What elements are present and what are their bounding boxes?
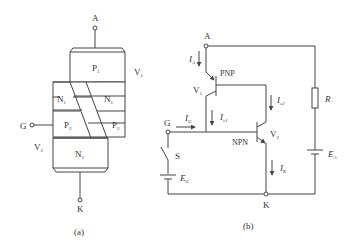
terminal-k-label-b: K	[263, 200, 270, 210]
current-ig-label: IG	[184, 113, 192, 124]
resistor-r-label: R	[324, 94, 331, 104]
terminal-g-label: G	[20, 121, 27, 131]
current-ik-label: IK	[279, 163, 287, 174]
terminal-g-node	[30, 123, 34, 127]
terminal-k-node	[78, 198, 82, 202]
layer-p1	[70, 48, 125, 82]
thyristor-diagram: A P1 V1 N1 N1 P2 P2 N2 V2	[0, 0, 354, 247]
v1-label-b: V1	[193, 85, 203, 96]
current-ia-label: IA	[188, 54, 196, 65]
switch-s-label: S	[175, 151, 180, 161]
current-ic2-label: Ic2	[276, 95, 285, 106]
npn-emitter	[257, 137, 265, 143]
terminal-k-node-b	[264, 192, 268, 196]
npn-label: NPN	[232, 138, 248, 147]
source-eg-label: EG	[179, 173, 190, 184]
caption-a: (a)	[74, 227, 84, 237]
resistor-r	[312, 88, 318, 108]
terminal-a-label: A	[92, 13, 99, 23]
pnp-emitter	[206, 72, 214, 80]
terminal-a-label-b: A	[204, 31, 211, 41]
v2-label-b: V2	[270, 129, 280, 140]
terminal-g-node-b	[166, 130, 170, 134]
transistor-v2-label: V2	[34, 142, 44, 153]
pnp-label: PNP	[220, 69, 235, 78]
transistor-v1-label: V1	[134, 67, 144, 78]
terminal-k-label: K	[77, 204, 84, 214]
terminal-a-node-b	[204, 44, 208, 48]
figure-b-circuit: A PNP V1 IA Ic1 Ic2 G IG NPN V2	[160, 31, 338, 231]
current-ic1-label: Ic1	[219, 112, 228, 123]
terminal-a-node	[93, 26, 97, 30]
figure-a-structure: A P1 V1 N1 N1 P2 P2 N2 V2	[20, 13, 144, 237]
caption-b: (b)	[243, 221, 254, 231]
switch-s	[161, 147, 168, 160]
terminal-g-label-b: G	[164, 118, 171, 128]
source-ea-label: EA	[327, 149, 338, 160]
